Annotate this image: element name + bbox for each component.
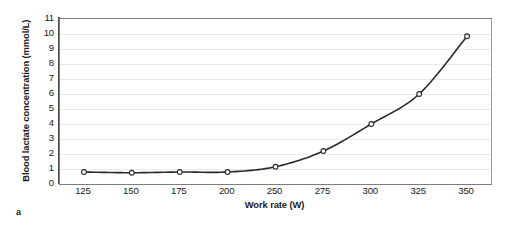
x-axis-tick-275: 275 (315, 186, 330, 196)
data-point-275 (321, 149, 326, 154)
data-point-markers (82, 34, 470, 175)
panel-caption-label: a (16, 207, 21, 217)
y-axis-tick-11: 11 (38, 13, 54, 23)
x-axis-tick-200: 200 (219, 186, 234, 196)
y-axis-tick-6: 6 (38, 88, 54, 98)
x-axis-tick-350: 350 (458, 186, 473, 196)
data-point-175 (177, 170, 182, 175)
x-axis-tick-125: 125 (75, 186, 90, 196)
x-axis-title: Work rate (W) (59, 199, 490, 210)
x-axis-tick-175: 175 (171, 186, 186, 196)
lactate-curve (84, 36, 467, 173)
y-axis-tick-9: 9 (38, 43, 54, 53)
figure-panel: Blood lactate concentration (mmol/L) 012… (0, 0, 510, 227)
x-axis-tick-300: 300 (363, 186, 378, 196)
y-axis-tick-labels: 01234567891011 (38, 12, 54, 189)
y-axis-title: Blood lactate concentration (mmol/L) (21, 11, 30, 191)
data-point-250 (273, 164, 278, 169)
y-axis-tick-3: 3 (38, 133, 54, 143)
y-axis-tick-5: 5 (38, 103, 54, 113)
data-point-200 (225, 170, 230, 175)
y-axis-tick-2: 2 (38, 148, 54, 158)
y-axis-tick-1: 1 (38, 163, 54, 173)
y-axis-tick-10: 10 (38, 28, 54, 38)
x-axis-tick-labels: 125150175200250275300325350 (59, 186, 490, 200)
y-axis-tick-4: 4 (38, 118, 54, 128)
y-axis-tick-7: 7 (38, 73, 54, 83)
plot-area (59, 18, 492, 185)
data-point-150 (129, 170, 134, 175)
x-axis-tick-250: 250 (267, 186, 282, 196)
data-point-325 (417, 92, 422, 97)
data-series-line (60, 19, 491, 184)
data-point-350 (465, 34, 470, 39)
y-axis-tick-8: 8 (38, 58, 54, 68)
x-axis-tick-150: 150 (123, 186, 138, 196)
x-axis-tick-325: 325 (410, 186, 425, 196)
y-axis-tick-0: 0 (38, 178, 54, 188)
data-point-300 (369, 122, 374, 127)
data-point-125 (82, 170, 87, 175)
